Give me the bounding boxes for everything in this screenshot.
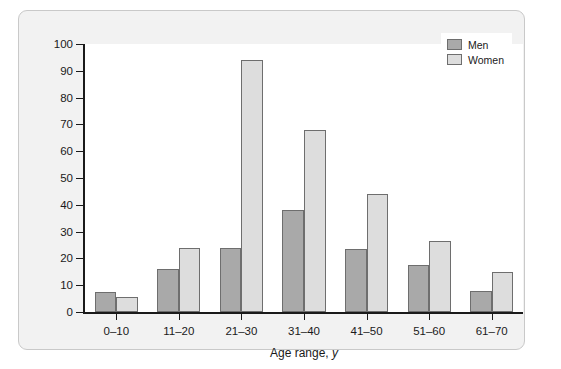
bar-women-11-20 (179, 248, 201, 312)
y-tick-label-10: 10 (60, 279, 73, 291)
x-tick-label-2: 21–30 (225, 325, 257, 337)
y-tick-50 (76, 178, 83, 179)
x-tick-label-4: 41–50 (351, 325, 383, 337)
x-tick-label-5: 51–60 (413, 325, 445, 337)
y-tick-0 (76, 312, 83, 313)
legend-label-men: Men (468, 39, 488, 51)
y-tick-label-70: 70 (60, 118, 73, 130)
x-tick-0 (116, 312, 117, 320)
y-tick-label-40: 40 (60, 199, 73, 211)
bar-men-11-20 (157, 269, 179, 312)
legend-entry-men: Men (447, 37, 504, 52)
bar-women-0-10 (116, 297, 138, 312)
y-tick-60 (76, 151, 83, 152)
legend-label-women: Women (468, 54, 504, 66)
legend: Men Women (441, 33, 512, 71)
bar-men-0-10 (95, 292, 117, 312)
bar-men-31-40 (282, 210, 304, 312)
y-tick-label-50: 50 (60, 172, 73, 184)
bar-women-41-50 (367, 194, 389, 312)
x-tick-6 (492, 312, 493, 320)
y-tick-label-20: 20 (60, 252, 73, 264)
x-tick-1 (179, 312, 180, 320)
bar-men-41-50 (345, 249, 367, 312)
figure-panel: 0102030405060708090100 0–1011–2021–3031–… (18, 10, 525, 350)
legend-swatch-women (447, 54, 462, 65)
legend-entry-women: Women (447, 52, 504, 67)
x-tick-label-3: 31–40 (288, 325, 320, 337)
bar-women-51-60 (429, 241, 451, 312)
y-axis-line (83, 44, 85, 312)
bar-men-61-70 (470, 291, 492, 312)
x-tick-label-1: 11–20 (163, 325, 194, 337)
y-tick-40 (76, 205, 83, 206)
y-tick-label-80: 80 (60, 92, 73, 104)
x-tick-3 (304, 312, 305, 320)
y-tick-30 (76, 232, 83, 233)
y-tick-100 (76, 44, 83, 45)
x-axis-title: Age range, y (85, 346, 523, 360)
y-tick-80 (76, 98, 83, 99)
y-tick-90 (76, 71, 83, 72)
x-tick-label-0: 0–10 (103, 325, 129, 337)
x-tick-4 (367, 312, 368, 320)
bar-women-21-30 (241, 60, 263, 312)
x-axis-title-text: Age range, (270, 346, 329, 360)
x-axis-line (83, 312, 523, 314)
y-tick-70 (76, 124, 83, 125)
y-tick-20 (76, 258, 83, 259)
y-tick-label-100: 100 (54, 38, 73, 50)
y-tick-label-0: 0 (67, 306, 73, 318)
bar-men-51-60 (408, 265, 430, 312)
legend-swatch-men (447, 39, 462, 50)
y-tick-10 (76, 285, 83, 286)
bar-women-31-40 (304, 130, 326, 312)
y-tick-label-30: 30 (60, 226, 73, 238)
bar-women-61-70 (492, 272, 514, 312)
x-axis-title-unit: y (332, 346, 338, 360)
y-tick-label-60: 60 (60, 145, 73, 157)
x-tick-label-6: 61–70 (476, 325, 508, 337)
bar-men-21-30 (220, 248, 242, 312)
plot-area: 0102030405060708090100 0–1011–2021–3031–… (85, 44, 523, 312)
x-tick-2 (241, 312, 242, 320)
y-tick-label-90: 90 (60, 65, 73, 77)
x-tick-5 (429, 312, 430, 320)
